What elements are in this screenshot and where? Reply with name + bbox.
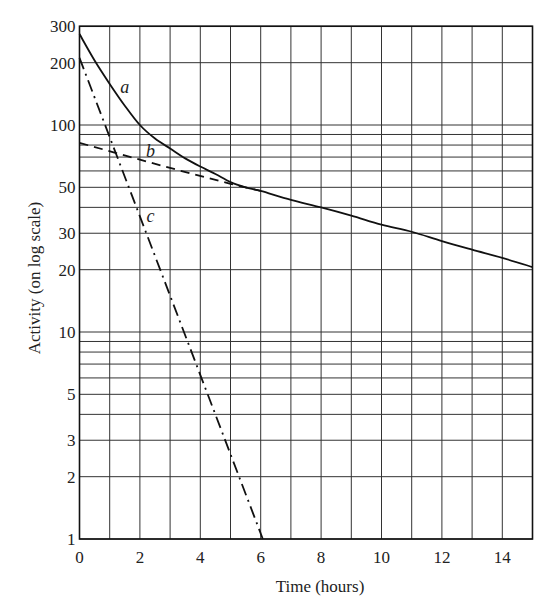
series-c-line: [80, 58, 263, 539]
x-tick-label: 14: [494, 548, 512, 567]
curve-label-a: a: [120, 77, 129, 97]
y-tick-label: 50: [59, 178, 76, 197]
y-axis-ticks: 123510203050100200300: [50, 17, 76, 549]
y-tick-label: 300: [50, 17, 76, 36]
x-tick-label: 0: [75, 548, 84, 567]
y-tick-label: 10: [59, 323, 76, 342]
y-tick-label: 1: [67, 530, 76, 549]
x-tick-label: 4: [196, 548, 205, 567]
data-series: [80, 34, 533, 539]
x-tick-label: 10: [373, 548, 390, 567]
plot-frame: [80, 26, 533, 539]
x-axis-ticks: 02468101214: [75, 548, 511, 567]
y-tick-label: 200: [50, 54, 76, 73]
curve-labels: abc: [120, 77, 155, 226]
y-tick-label: 30: [59, 224, 76, 243]
x-axis-label: Time (hours): [276, 577, 365, 596]
y-tick-label: 5: [67, 385, 76, 404]
grid-lines: [80, 26, 533, 539]
y-tick-label: 20: [59, 261, 76, 280]
x-tick-label: 12: [433, 548, 450, 567]
curve-label-c: c: [146, 206, 154, 226]
x-tick-label: 2: [136, 548, 145, 567]
decay-chart: 02468101214 123510203050100200300 abc Ti…: [0, 0, 553, 615]
x-tick-label: 6: [256, 548, 265, 567]
curve-label-b: b: [146, 141, 155, 161]
y-axis-label: Activity (on log scale): [25, 202, 44, 355]
y-tick-label: 2: [67, 468, 76, 487]
y-tick-label: 3: [67, 431, 76, 450]
y-tick-label: 100: [50, 116, 76, 135]
x-tick-label: 8: [317, 548, 326, 567]
